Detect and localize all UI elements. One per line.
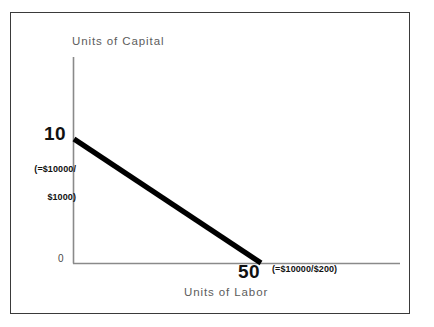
figure-container: Units of Capital Units of Labor 10 (=$10… <box>0 0 434 327</box>
y-axis-title: Units of Capital <box>72 35 164 47</box>
y-axis-tick-annotation-line2: $1000) <box>16 193 76 202</box>
y-axis-tick-label-10: 10 <box>44 124 66 144</box>
y-axis-tick-annotation-line1: (=$10000/ <box>16 165 76 174</box>
origin-label: 0 <box>58 254 64 265</box>
y-axis-tick-annotation: (=$10000/ $1000) <box>16 146 76 222</box>
x-axis-tick-label-50: 50 <box>238 262 260 282</box>
isocost-line <box>74 139 261 263</box>
x-axis-title: Units of Labor <box>184 286 268 298</box>
x-axis-tick-annotation: (=$10000/$200) <box>272 265 337 274</box>
